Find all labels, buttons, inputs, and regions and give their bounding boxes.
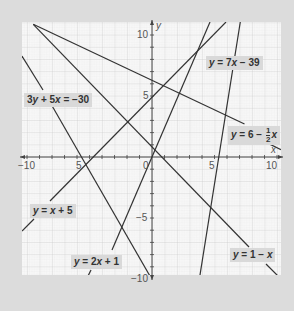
label-y-x-5: y = x + 5 <box>30 204 76 218</box>
x-axis-name: x <box>271 144 276 155</box>
graph-canvas <box>0 0 294 311</box>
label-y-6-half-x: y = 6 − 12x <box>228 126 280 145</box>
x-tick-label-m5: 5 <box>76 160 82 171</box>
y-axis-name: y <box>156 20 161 31</box>
label-3y-5x-m30: 3y + 5x = −30 <box>24 93 92 107</box>
label-y-1-x: y = 1 − x <box>230 248 275 262</box>
y-tick-label-10: 10 <box>137 29 148 40</box>
label-y-2x-1: y = 2x + 1 <box>71 255 122 269</box>
x-tick-label-5: 5 <box>209 160 215 171</box>
y-tick-label-m5: −5 <box>136 212 147 223</box>
y-tick-label-5: 5 <box>143 90 149 101</box>
y-tick-label-m10: −10 <box>131 273 148 284</box>
x-tick-label-m10: −10 <box>18 160 35 171</box>
label-y-7x-39: y = 7x − 39 <box>206 56 263 70</box>
x-tick-label-10: 10 <box>266 160 277 171</box>
x-tick-label-0: 0 <box>143 160 149 171</box>
